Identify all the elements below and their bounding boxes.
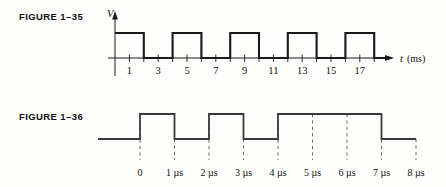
tick-label: 8 µs — [407, 167, 424, 178]
tick-label: 9 — [242, 65, 247, 76]
figure-1-35-caption: FIGURE 1–35 — [19, 11, 83, 22]
tick-label: 2 µs — [200, 167, 217, 178]
figure-1-36: FIGURE 1–36 — [0, 92, 446, 187]
tick-label: 3 µs — [235, 167, 252, 178]
tick-label: 1 µs — [166, 167, 183, 178]
textbook-figure-page: FIGURE 1–35 — [0, 0, 446, 187]
x-tick-labels-136: 0 1 µs 2 µs 3 µs 4 µs 5 µs 6 µs 7 µs 8 µ… — [138, 167, 425, 178]
figure-1-36-svg: 0 1 µs 2 µs 3 µs 4 µs 5 µs 6 µs 7 µs 8 µ… — [92, 98, 442, 183]
tick-label: 5 µs — [304, 167, 321, 178]
tick-label: 6 µs — [338, 167, 355, 178]
tick-label: 3 — [156, 65, 161, 76]
waveform-trace-136 — [98, 114, 416, 139]
tick-label: 7 µs — [373, 167, 390, 178]
tick-label: 17 — [355, 65, 366, 76]
waveform-trace-135 — [115, 33, 387, 58]
tick-label: 4 µs — [269, 167, 286, 178]
x-axis-label-135: t — [400, 53, 404, 64]
figure-1-35-svg: V 0 1 3 5 7 9 11 13 15 17 t (ms) — [104, 6, 434, 86]
tick-label: 5 — [184, 65, 189, 76]
figure-1-35: FIGURE 1–35 — [0, 0, 446, 92]
figure-1-36-caption: FIGURE 1–36 — [19, 111, 83, 122]
y-axis-135 — [112, 11, 118, 76]
tick-label: 0 — [138, 167, 143, 178]
figure-1-36-plot: 0 1 µs 2 µs 3 µs 4 µs 5 µs 6 µs 7 µs 8 µ… — [92, 98, 442, 187]
tick-label: 11 — [268, 65, 278, 76]
tick-label: 15 — [326, 65, 337, 76]
figure-1-35-plot: V 0 1 3 5 7 9 11 13 15 17 t (ms) — [104, 6, 434, 90]
x-axis-unit-135: (ms) — [407, 53, 425, 65]
tick-label: 7 — [213, 65, 218, 76]
x-tick-labels-135: 1 3 5 7 9 11 13 15 17 — [127, 65, 365, 76]
tick-label: 13 — [297, 65, 308, 76]
tick-label: 1 — [127, 65, 132, 76]
